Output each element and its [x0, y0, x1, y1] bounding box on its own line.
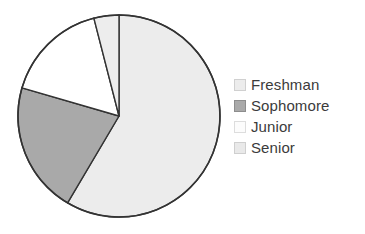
- pie-slice-group: [18, 15, 220, 217]
- legend-item-sophomore[interactable]: Sophomore: [234, 95, 362, 116]
- chart-legend: Freshman Sophomore Junior Senior: [234, 74, 362, 158]
- pie-plot-area: [10, 6, 230, 228]
- legend-swatch-senior: [234, 142, 246, 154]
- legend-item-junior[interactable]: Junior: [234, 116, 362, 137]
- legend-swatch-sophomore: [234, 100, 246, 112]
- pie-svg: [10, 6, 230, 228]
- legend-label-senior: Senior: [251, 139, 295, 156]
- legend-label-sophomore: Sophomore: [251, 97, 329, 114]
- legend-swatch-junior: [234, 121, 246, 133]
- legend-label-freshman: Freshman: [251, 76, 319, 93]
- legend-item-freshman[interactable]: Freshman: [234, 74, 362, 95]
- legend-item-senior[interactable]: Senior: [234, 137, 362, 158]
- pie-chart-figure: Freshman Sophomore Junior Senior: [0, 0, 365, 234]
- legend-swatch-freshman: [234, 79, 246, 91]
- legend-label-junior: Junior: [251, 118, 292, 135]
